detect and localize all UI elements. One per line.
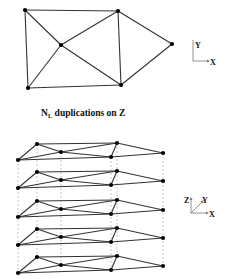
graph-edge	[111, 256, 117, 270]
graph-edge	[18, 144, 37, 160]
layer-node	[115, 254, 119, 258]
graph-edge	[111, 266, 163, 270]
graph-layer-1	[16, 141, 165, 162]
layer-node	[35, 199, 39, 203]
layer-node	[161, 264, 165, 268]
graph-edge	[37, 257, 61, 265]
graph-edge	[111, 181, 163, 185]
graph-edge	[25, 10, 61, 45]
graph-edge	[25, 10, 28, 88]
graph-edge	[117, 200, 163, 210]
layer-node	[35, 227, 39, 231]
axes-2d: Y X	[193, 40, 216, 67]
y-axis-line-3d	[191, 202, 202, 213]
graph-layer-5	[16, 254, 165, 275]
axes-3d: Z Y X	[184, 196, 215, 219]
layer-node	[115, 226, 119, 230]
layer-node	[59, 263, 63, 267]
layer-node	[161, 236, 165, 240]
graph-edge	[28, 85, 121, 88]
graph-edge	[18, 201, 37, 217]
layer-node	[16, 243, 20, 247]
graph-edge	[18, 257, 37, 273]
layer-node	[59, 150, 63, 154]
graph-edge	[61, 237, 111, 242]
layer-node	[115, 141, 119, 145]
layer-node	[109, 212, 113, 216]
graph-edge	[37, 228, 117, 229]
graph-edge	[61, 200, 117, 209]
graph-edge	[25, 10, 118, 11]
y-axis-label-3d: Y	[202, 196, 208, 205]
graph-edge	[118, 11, 172, 44]
graph-edge	[61, 143, 117, 152]
z-arrow-icon	[190, 197, 193, 200]
layer-node	[161, 179, 165, 183]
layer-node	[109, 268, 113, 272]
graph-node	[26, 86, 30, 90]
graph-edge	[28, 45, 61, 88]
graph-edge	[37, 143, 117, 144]
layer-node	[161, 208, 165, 212]
graph-node	[23, 8, 27, 12]
layer-node	[35, 255, 39, 259]
graph-edge	[18, 229, 37, 245]
layer-node	[109, 240, 113, 244]
layer-node	[109, 155, 113, 159]
layer-node	[59, 207, 63, 211]
planar-graph	[23, 8, 174, 90]
graph-edge	[37, 171, 117, 172]
graph-node	[119, 83, 123, 87]
layer-connectors	[18, 143, 163, 273]
graph-edge	[61, 45, 121, 85]
graph-edge	[37, 200, 117, 201]
graph-edge	[117, 171, 163, 181]
layer-node	[35, 142, 39, 146]
graph-edge	[111, 171, 117, 185]
y-axis-label: Y	[195, 41, 201, 50]
graph-node	[116, 9, 120, 13]
graph-layer-2	[16, 169, 165, 190]
graph-edge	[37, 229, 61, 237]
layer-node	[16, 186, 20, 190]
graph-edge	[37, 201, 61, 209]
graph-edge	[117, 143, 163, 153]
graph-edge	[61, 171, 117, 180]
graph-node	[59, 43, 63, 47]
graph-edge	[37, 256, 117, 257]
caption: NL duplications on Z	[41, 108, 125, 119]
stacked-graph	[16, 141, 165, 275]
z-axis-label: Z	[184, 196, 189, 205]
graph-edge	[111, 238, 163, 242]
graph-edge	[61, 152, 111, 157]
graph-node	[170, 42, 174, 46]
caption-rest: duplications on Z	[52, 108, 125, 118]
x-axis-label-3d: X	[209, 210, 215, 219]
layer-node	[59, 235, 63, 239]
x-axis-label: X	[210, 58, 216, 67]
graph-edge	[118, 11, 121, 85]
graph-edge	[117, 256, 163, 266]
graph-edge	[37, 144, 61, 152]
layer-node	[16, 215, 20, 219]
graph-edge	[121, 44, 172, 85]
layer-node	[109, 183, 113, 187]
graph-edge	[111, 200, 117, 214]
graph-edge	[111, 143, 117, 157]
layer-node	[59, 178, 63, 182]
layer-node	[115, 198, 119, 202]
graph-edge	[111, 153, 163, 157]
graph-edge	[61, 256, 117, 265]
graph-edge	[37, 172, 61, 180]
layer-node	[16, 158, 20, 162]
graph-edge	[111, 210, 163, 214]
graph-layer-3	[16, 198, 165, 219]
graph-edge	[61, 11, 118, 45]
layer-node	[35, 170, 39, 174]
graph-edge	[61, 265, 111, 270]
graph-edge	[18, 172, 37, 188]
diagram-canvas: Y X NL duplications on Z Z Y X	[0, 0, 231, 279]
graph-edge	[61, 180, 111, 185]
layer-node	[115, 169, 119, 173]
graph-edge	[111, 228, 117, 242]
